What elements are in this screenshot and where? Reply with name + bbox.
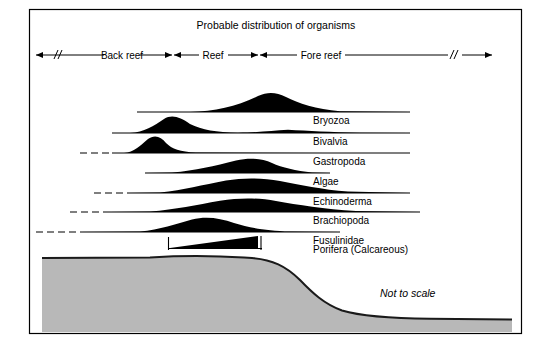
zone-label-reef: Reef	[202, 50, 223, 61]
organism-label-gastropoda: Gastropoda	[313, 156, 366, 167]
organism-label-bryozoa: Bryozoa	[313, 115, 350, 126]
not-to-scale-note: Not to scale	[380, 287, 436, 299]
break-mark-right	[448, 49, 462, 61]
reef-organism-distribution-diagram: Probable distribution of organisms Back …	[0, 0, 542, 343]
diagram-canvas: Probable distribution of organisms Back …	[0, 0, 542, 343]
organism-label-brachiopoda: Brachiopoda	[313, 215, 370, 226]
organism-label-porifera: Porifera (Calcareous)	[313, 244, 408, 255]
organism-label-algae: Algae	[313, 176, 339, 187]
organism-label-echinoderma: Echinoderma	[313, 196, 372, 207]
zone-label-back-reef: Back reef	[101, 50, 143, 61]
organism-label-bivalvia: Bivalvia	[313, 136, 348, 147]
zone-label-fore-reef: Fore reef	[301, 50, 342, 61]
diagram-title: Probable distribution of organisms	[197, 19, 356, 31]
